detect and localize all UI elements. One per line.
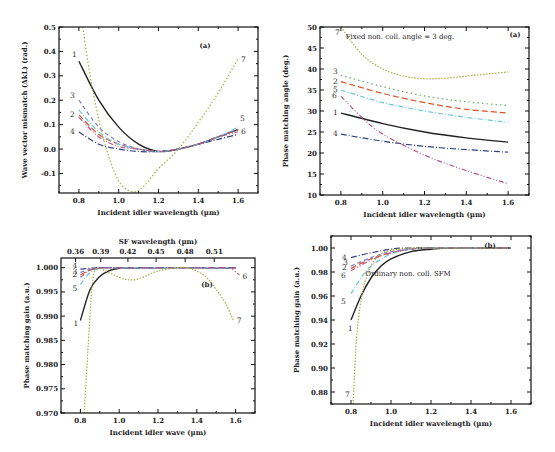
series-label-6: 6 [242,272,247,281]
series-label-1: 1 [72,50,77,59]
panel-label: (a) [509,30,520,39]
y-tick-label: 0.92 [311,340,328,349]
series-line-3 [351,248,511,266]
series-label-7: 7 [345,390,350,399]
series-label-5: 5 [341,297,346,306]
series-label-5: 5 [240,114,245,123]
x-tick-label: 1.2 [152,196,164,205]
series-line-1 [80,268,235,321]
y-tick-label: 0.94 [311,316,328,325]
series-label-4: 4 [70,127,75,136]
y-tick-label: 0.975 [36,384,58,393]
x-tick-label: 1.2 [425,407,437,416]
series-label-6: 6 [341,271,346,280]
x-tick-label: 1.0 [377,198,389,207]
annotation: Fixed non. coll. angle = 3 deg. [346,33,455,41]
series-label-6: 6 [241,127,246,136]
x-tick-label: 1.4 [191,416,203,425]
x2-tick-label: 0.48 [177,247,194,256]
x-tick-label: 1.6 [232,196,244,205]
series-label-7: 7 [335,28,340,37]
series-line-3 [341,75,508,105]
x-tick-label: 1.0 [113,416,125,425]
x-tick-label: 0.8 [335,198,347,207]
x2-tick-label: 0.42 [119,247,136,256]
y-tick-label: 0.88 [311,388,328,397]
y-tick-label: 1.00 [311,244,328,253]
x-tick-label: 1.4 [192,196,204,205]
x-tick-label: 1.6 [502,198,514,207]
annotation: Ordinary non. coll. SFM [365,270,451,278]
series-label-1: 1 [73,319,78,328]
plot-frame [61,258,255,413]
x-tick-label: 0.8 [73,196,85,205]
y-axis-label: Phase matching gain (a.u.) [22,282,31,388]
x-tick-label: 1.6 [505,407,517,416]
y-tick-label: 0.0 [44,145,56,154]
figure: 12345670.81.01.21.41.6-0.10.00.10.20.30.… [0,0,555,452]
x2-tick-label: 0.39 [92,247,109,256]
y-tick-label: 30 [307,107,317,116]
series-label-7: 7 [237,316,242,325]
y-tick-label: 0.90 [311,364,328,373]
panel-label: (b) [484,241,496,250]
y-tick-label: 20 [307,149,317,158]
y-tick-label: 0.96 [311,292,328,301]
panel-label: (a) [199,41,210,50]
series-label-4: 4 [333,129,338,138]
x-tick-label: 0.8 [74,416,86,425]
series-line-5 [341,90,508,122]
y-tick-label: 35 [307,86,317,95]
x-tick-label: 1.6 [230,416,242,425]
series-line-4 [341,134,508,152]
y-tick-label: 0.990 [36,312,58,321]
x-axis-label: Incident idler wavelength (µm) [363,210,485,219]
chart-bottom-right: 12345670.81.01.21.41.60.880.900.920.940.… [292,236,531,428]
y-tick-label: 0.2 [44,96,56,105]
y-tick-label: 1.000 [36,263,58,272]
x-axis-label: Incident idler wavelength (µm) [97,208,219,217]
x2-axis-label: SF wavelength (µm) [119,237,198,246]
series-line-2 [341,82,508,114]
y-tick-label: 0.970 [36,409,58,418]
x-tick-label: 1.0 [113,196,125,205]
y-axis-label: Wave vector mismatch (ΔkL) (rad.) [20,42,29,180]
series-label-3: 3 [70,91,75,100]
y-tick-label: 40 [307,65,317,74]
y-tick-label: 25 [307,128,317,137]
chart-top-left: 12345670.81.01.21.41.6-0.10.00.10.20.30.… [20,23,258,218]
y-tick-label: 50 [307,23,317,32]
plot-frame [320,27,529,195]
x2-tick-label: 0.45 [148,247,165,256]
y-tick-label: 0.1 [44,120,56,129]
x-tick-label: 1.4 [460,198,472,207]
y-tick-label: 10 [307,191,317,200]
y-tick-label: 0.5 [44,23,56,32]
x-tick-label: 1.0 [385,407,397,416]
series-label-3: 3 [333,67,338,76]
y-tick-label: 45 [307,44,317,53]
plot-frame [331,236,531,404]
y-tick-label: 15 [307,170,317,179]
x-axis-label: Incident idler wavelength (µm) [370,419,492,428]
y-tick-label: 0.995 [36,287,58,296]
series-group [80,267,239,413]
y-tick-label: 0.985 [36,336,58,345]
series-label-4: 4 [72,261,77,270]
series-label-2: 2 [70,110,75,119]
series-line-7 [83,27,238,192]
series-line-7 [84,267,233,413]
series-label-4: 4 [342,253,347,262]
series-label-1: 1 [348,324,353,333]
x-tick-label: 0.8 [345,407,357,416]
chart-top-right: 12345670.81.01.21.41.6101520253035404550… [281,23,529,220]
series-group [79,27,238,192]
series-group [341,27,508,184]
y-tick-label: 0.3 [44,71,56,80]
series-line-3 [79,100,238,151]
x-tick-label: 1.2 [152,416,164,425]
y-tick-label: 0.980 [36,360,58,369]
x-tick-label: 1.2 [418,198,430,207]
series-line-1 [341,113,508,142]
y-tick-label: -0.1 [41,169,56,178]
